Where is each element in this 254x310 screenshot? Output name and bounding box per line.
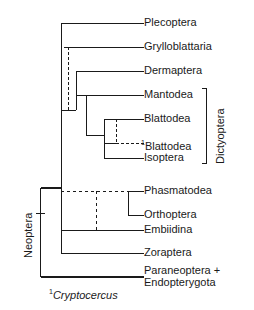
tip-label-plecoptera: Plecoptera (144, 17, 197, 28)
tip-label-isoptera: Isoptera (144, 152, 184, 163)
tip-label-dermaptera: Dermaptera (144, 65, 202, 76)
tip-label-paraneoptera-endopterygota: Paraneoptera +Endopterygota (144, 265, 248, 288)
tip-label-blattodea: Blattodea (144, 113, 190, 124)
cladogram-figure: Plecoptera Grylloblattaria Dermaptera Ma… (0, 0, 254, 310)
footnote-taxon: Cryptocercus (53, 289, 118, 301)
tip-label-phasmatodea: Phasmatodea (144, 185, 212, 196)
figure-footnote: 1Cryptocercus (49, 288, 118, 301)
bracket-label-dictyoptera: Dictyoptera (214, 108, 226, 164)
tip-label-embiidina: Embiidina (144, 224, 192, 235)
tip-label-mantodea: Mantodea (144, 89, 193, 100)
tip-label-orthoptera: Orthoptera (144, 209, 197, 220)
clade-label-neoptera: Neoptera (22, 213, 34, 258)
tip-label-zoraptera: Zoraptera (144, 247, 192, 258)
tip-label-blattodea-cryptocercus: 1Blattodea (141, 137, 191, 152)
tip-label-grylloblattaria: Grylloblattaria (144, 41, 212, 52)
